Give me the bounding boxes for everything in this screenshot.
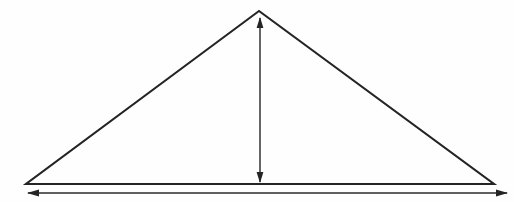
- figure-background: [0, 0, 514, 202]
- triangle-dimension-figure: [0, 0, 514, 202]
- diagram-canvas: [0, 0, 514, 202]
